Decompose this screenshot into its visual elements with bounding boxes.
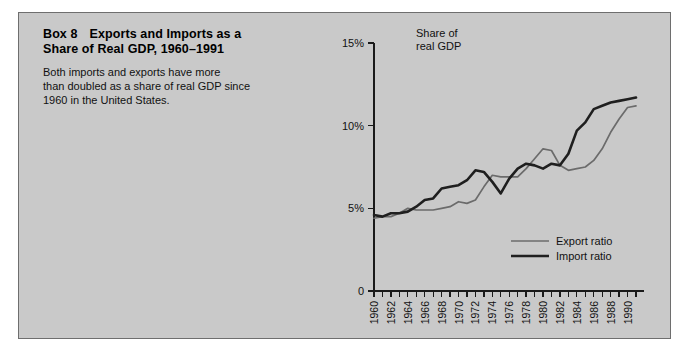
x-tick-label: 1962 (385, 301, 397, 325)
y-tick-label: 10% (342, 120, 364, 132)
x-tick-label: 1964 (402, 301, 414, 325)
y-tick-label: 15% (342, 37, 364, 49)
x-tick-label: 1966 (419, 301, 431, 325)
line-chart: 05%10%15% 196019621964196619681970197219… (19, 13, 671, 339)
x-tick-label: 1990 (622, 301, 634, 325)
legend-label: Import ratio (556, 250, 612, 262)
y-tick-label: 0 (358, 285, 364, 297)
x-tick-label: 1968 (436, 301, 448, 325)
x-tick-label: 1988 (605, 301, 617, 325)
x-tick-label: 1986 (588, 301, 600, 325)
y-axis-ticks: 05%10%15% (342, 37, 374, 297)
x-tick-label: 1974 (486, 301, 498, 325)
x-tick-label: 1982 (554, 301, 566, 325)
x-tick-label: 1970 (453, 301, 465, 325)
x-tick-label: 1960 (368, 301, 380, 325)
x-tick-label: 1976 (503, 301, 515, 325)
series-line-export-ratio (374, 106, 636, 218)
x-tick-label: 1978 (520, 301, 532, 325)
x-axis-ticks: 1960196219641966196819701972197419761978… (368, 291, 636, 324)
legend-label: Export ratio (556, 235, 612, 247)
x-tick-label: 1972 (469, 301, 481, 325)
x-tick-label: 1980 (537, 301, 549, 325)
y-tick-label: 5% (348, 202, 364, 214)
chart-panel: Box 8Exports and Imports as a Share of R… (18, 12, 671, 339)
x-tick-label: 1984 (571, 301, 583, 325)
figure-root: Box 8Exports and Imports as a Share of R… (0, 0, 689, 355)
chart-legend: Export ratioImport ratio (511, 235, 612, 262)
